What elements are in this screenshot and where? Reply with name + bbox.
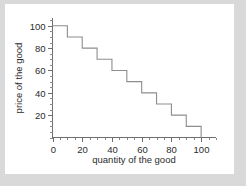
x-tick-label: 60 (137, 144, 148, 155)
y-tick-label: 60 (35, 65, 46, 76)
x-tick-label: 20 (77, 144, 88, 155)
x-tick-label: 40 (107, 144, 118, 155)
x-axis-title: quantity of the good (92, 154, 175, 165)
y-tick-label: 100 (30, 21, 46, 32)
chart-card: 20406080100 020406080100 quantity of the… (5, 4, 234, 174)
y-tick-label: 20 (35, 110, 46, 121)
y-axis-title: price of the good (13, 43, 24, 114)
demand-curve-chart: 20406080100 020406080100 quantity of the… (5, 4, 234, 174)
y-tick-label: 80 (35, 43, 46, 54)
x-tick-label: 100 (194, 144, 210, 155)
y-axis-tick-labels: 20406080100 (30, 21, 46, 121)
demand-step-curve (53, 26, 202, 138)
y-axis-major-ticks (48, 27, 53, 116)
y-tick-label: 40 (35, 88, 46, 99)
x-axis-tick-labels: 020406080100 (51, 144, 210, 155)
x-tick-label: 80 (166, 144, 177, 155)
x-tick-label: 0 (51, 144, 56, 155)
chart-page: 20406080100 020406080100 quantity of the… (0, 0, 246, 186)
